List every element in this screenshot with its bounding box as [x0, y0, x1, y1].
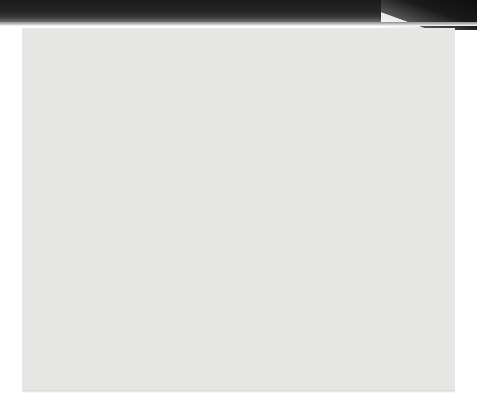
scan-edge-highlight	[0, 22, 477, 26]
panel-bottom-shadow	[22, 390, 455, 393]
line-chart-svg	[22, 28, 455, 328]
figure-footnote	[49, 375, 459, 387]
figure-panel	[22, 28, 455, 390]
chart-plot-area	[22, 28, 455, 328]
source-text	[49, 376, 459, 387]
